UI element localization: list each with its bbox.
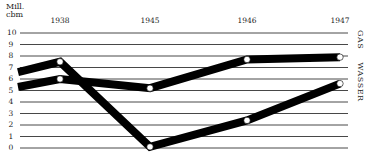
data-point-marker — [147, 144, 153, 150]
data-point-marker — [337, 80, 343, 86]
legend: GAS WASSER — [353, 30, 365, 130]
chart-plot-area — [0, 0, 377, 161]
gridlines — [20, 33, 348, 148]
data-point-marker — [57, 76, 63, 82]
data-point-marker — [57, 59, 63, 65]
data-point-marker — [244, 56, 250, 62]
data-point-marker — [147, 85, 153, 91]
series-line-gas — [18, 62, 340, 147]
legend-wasser: WASSER — [356, 62, 365, 101]
data-point-marker — [244, 117, 250, 123]
legend-gas: GAS — [356, 30, 365, 49]
data-point-marker — [337, 54, 343, 60]
